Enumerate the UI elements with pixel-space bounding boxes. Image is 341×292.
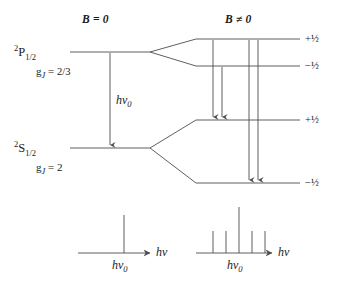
g-factor-upper: gJ = 2/3 [36,66,70,80]
center-sub-right: 0 [238,264,242,274]
g-factor-lower: gJ = 2 [36,162,63,176]
g-value-lower: 2 [57,161,63,173]
term-symbol-lower: 2S1/2 [14,140,36,157]
transition-energy-label: hν0 [116,94,132,109]
mj-label-upper-plus: +½ [305,34,319,45]
center-sub-left: 0 [123,264,127,274]
fan-line-upper-plus [150,39,196,52]
fan-line-upper-minus [150,52,196,66]
mj-label-lower-minus: −½ [305,178,319,189]
fan-line-lower-minus [150,148,196,183]
term-symbol-upper: 2P1/2 [14,44,36,61]
spectrum-axis-label-right: hν [278,246,289,258]
spectrum-center-label-right: hν0 [227,259,243,274]
mj-label-upper-minus: −½ [305,61,319,72]
header-with-field: B ≠ 0 [225,14,251,26]
axis-nu-right: ν [284,245,289,259]
transition-sub: 0 [127,99,131,109]
spectrum-axis-label-left: hν [156,246,167,258]
mj-label-lower-plus: +½ [305,115,319,126]
g-equals-lower: = [45,161,57,173]
spectrum-center-label-left: hν0 [112,259,128,274]
axis-nu-left: ν [162,245,167,259]
diagram-vector-layer [0,0,341,292]
fan-line-lower-plus [150,120,196,148]
term-j-lower: 1/2 [25,148,36,158]
g-value-upper: 2/3 [57,67,70,78]
g-equals-upper: = [45,65,57,77]
term-j-upper: 1/2 [25,52,36,62]
zeeman-diagram-figure: B = 0 B ≠ 0 2P1/2 gJ = 2/3 2S1/2 gJ = 2 … [0,0,341,292]
header-no-field: B = 0 [82,14,109,26]
